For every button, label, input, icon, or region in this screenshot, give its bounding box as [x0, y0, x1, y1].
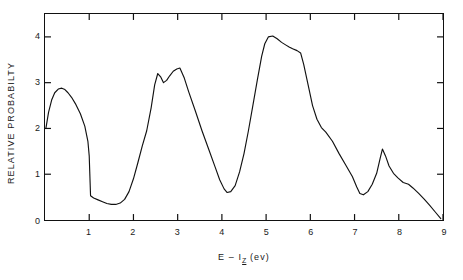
x-axis-tick-label: 5 [256, 228, 276, 237]
x-axis-tick-label: 4 [212, 228, 232, 237]
x-axis-tick-label: 9 [434, 228, 454, 237]
chart-figure: RELATIVE PROBABILTY 01234 123456789 E – … [0, 0, 463, 280]
x-axis-tick-labels: 123456789 [0, 0, 463, 280]
x-axis-title-tail: (ev) [246, 252, 270, 262]
x-axis-tick-label: 1 [78, 228, 98, 237]
x-axis-tick-label: 7 [345, 228, 365, 237]
x-axis-tick-label: 2 [123, 228, 143, 237]
x-axis-title: E – IZ (ev) [44, 252, 444, 264]
x-axis-tick-label: 6 [301, 228, 321, 237]
x-axis-tick-label: 8 [390, 228, 410, 237]
x-axis-tick-label: 3 [167, 228, 187, 237]
x-axis-title-lead: E – I [218, 252, 242, 262]
